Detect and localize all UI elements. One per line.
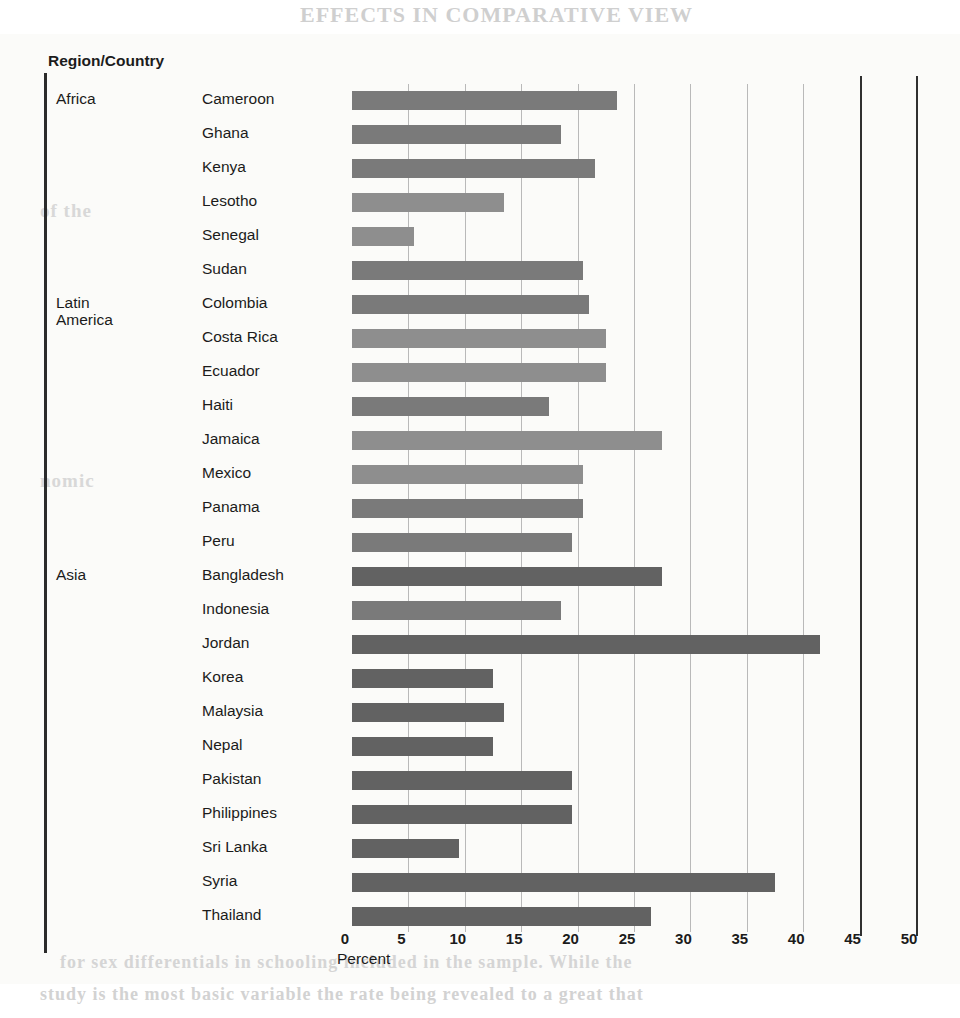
x-tick-15: 15 [506, 930, 523, 947]
country-label: Cameroon [202, 90, 274, 108]
country-label: Haiti [202, 396, 233, 414]
chart-row: Sudan [0, 254, 960, 288]
chart-row: AsiaBangladesh [0, 560, 960, 594]
bar-sudan [352, 261, 583, 280]
bar-pakistan [352, 771, 572, 790]
chart-row: Pakistan [0, 764, 960, 798]
chart-row: Ghana [0, 118, 960, 152]
bar-jamaica [352, 431, 662, 450]
x-tick-30: 30 [675, 930, 692, 947]
country-label: Ecuador [202, 362, 260, 380]
country-label: Ghana [202, 124, 249, 142]
x-axis: 05101520253035404550 Percent [0, 930, 960, 970]
chart-row: Jamaica [0, 424, 960, 458]
x-axis-title: Percent [337, 950, 390, 968]
country-label: Syria [202, 872, 237, 890]
x-tick-25: 25 [619, 930, 636, 947]
country-label: Sudan [202, 260, 247, 278]
x-tick-40: 40 [788, 930, 805, 947]
x-tick-5: 5 [397, 930, 405, 947]
chart-row: Jordan [0, 628, 960, 662]
bar-kenya [352, 159, 595, 178]
x-tick-50: 50 [901, 930, 918, 947]
chart-row: Haiti [0, 390, 960, 424]
bar-syria [352, 873, 775, 892]
country-label: Malaysia [202, 702, 263, 720]
x-tick-10: 10 [449, 930, 466, 947]
chart-row: Costa Rica [0, 322, 960, 356]
chart-row: Senegal [0, 220, 960, 254]
horizontal-bar-chart: Region/Country AfricaCameroonGhanaKenyaL… [0, 0, 960, 1018]
chart-row: Thailand [0, 900, 960, 934]
country-label: Korea [202, 668, 243, 686]
country-label: Colombia [202, 294, 267, 312]
chart-row: Kenya [0, 152, 960, 186]
region-label: Africa [56, 90, 96, 108]
chart-row: Malaysia [0, 696, 960, 730]
bar-haiti [352, 397, 549, 416]
x-tick-20: 20 [562, 930, 579, 947]
country-label: Pakistan [202, 770, 261, 788]
bar-lesotho [352, 193, 504, 212]
country-label: Indonesia [202, 600, 269, 618]
bar-nepal [352, 737, 493, 756]
region-label: Asia [56, 566, 86, 584]
country-label: Jordan [202, 634, 249, 652]
chart-row: Philippines [0, 798, 960, 832]
chart-row: Lesotho [0, 186, 960, 220]
country-label: Panama [202, 498, 260, 516]
x-tick-35: 35 [731, 930, 748, 947]
chart-row: Mexico [0, 458, 960, 492]
chart-row: LatinAmericaColombia [0, 288, 960, 322]
bar-indonesia [352, 601, 561, 620]
country-label: Peru [202, 532, 235, 550]
bar-sri-lanka [352, 839, 459, 858]
country-label: Philippines [202, 804, 277, 822]
bar-thailand [352, 907, 651, 926]
country-label: Kenya [202, 158, 246, 176]
x-tick-0: 0 [341, 930, 349, 947]
column-header-region-country: Region/Country [48, 52, 164, 70]
chart-row: Ecuador [0, 356, 960, 390]
bar-ecuador [352, 363, 606, 382]
chart-row: Panama [0, 492, 960, 526]
country-label: Sri Lanka [202, 838, 267, 856]
bar-malaysia [352, 703, 504, 722]
bar-cameroon [352, 91, 617, 110]
bar-ghana [352, 125, 561, 144]
chart-row: Indonesia [0, 594, 960, 628]
bar-panama [352, 499, 583, 518]
chart-row: Syria [0, 866, 960, 900]
country-label: Mexico [202, 464, 251, 482]
chart-row: Sri Lanka [0, 832, 960, 866]
bar-bangladesh [352, 567, 662, 586]
bar-philippines [352, 805, 572, 824]
region-label: Latin [56, 294, 90, 312]
x-tick-45: 45 [844, 930, 861, 947]
bar-senegal [352, 227, 414, 246]
bar-jordan [352, 635, 820, 654]
chart-row: Peru [0, 526, 960, 560]
chart-row: AfricaCameroon [0, 84, 960, 118]
country-label: Senegal [202, 226, 259, 244]
country-label: Lesotho [202, 192, 257, 210]
country-label: Bangladesh [202, 566, 284, 584]
bar-colombia [352, 295, 589, 314]
country-label: Nepal [202, 736, 243, 754]
chart-row: Korea [0, 662, 960, 696]
bar-costa-rica [352, 329, 606, 348]
bar-peru [352, 533, 572, 552]
country-label: Costa Rica [202, 328, 278, 346]
bar-korea [352, 669, 493, 688]
country-label: Thailand [202, 906, 261, 924]
chart-row: Nepal [0, 730, 960, 764]
country-label: Jamaica [202, 430, 260, 448]
bar-mexico [352, 465, 583, 484]
